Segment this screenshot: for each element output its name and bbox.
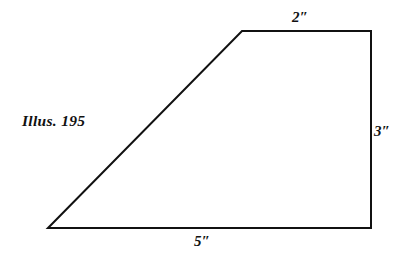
trapezoid-figure <box>0 0 410 262</box>
figure-caption: Illus. 195 <box>22 113 85 129</box>
dimension-label-right: 3″ <box>374 124 390 139</box>
dimension-label-top: 2″ <box>292 10 308 25</box>
dimension-label-bottom: 5″ <box>194 234 210 249</box>
trapezoid-shape <box>48 31 371 228</box>
figure-container: 2″ 3″ 5″ Illus. 195 <box>0 0 410 262</box>
